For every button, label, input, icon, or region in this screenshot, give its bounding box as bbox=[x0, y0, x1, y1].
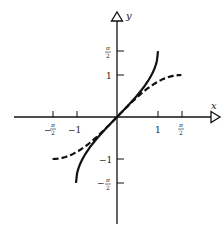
svg-text:π: π bbox=[105, 44, 111, 51]
x-tick-labels: − π 2 −1 1 π 2 bbox=[44, 121, 184, 136]
y-tick-label-neg-one: −1 bbox=[99, 155, 112, 165]
x-axis-label: x bbox=[211, 100, 217, 111]
svg-text:2: 2 bbox=[106, 184, 110, 191]
x-tick-label-pi-half: π 2 bbox=[178, 121, 184, 136]
svg-text:2: 2 bbox=[106, 52, 110, 59]
svg-text:π: π bbox=[105, 176, 111, 183]
y-tick-label-neg-pi-half: − π 2 bbox=[97, 176, 111, 191]
svg-text:π: π bbox=[50, 121, 56, 128]
x-tick-label-neg-one: −1 bbox=[68, 125, 81, 135]
svg-text:−: − bbox=[97, 178, 105, 188]
y-tick-label-one: 1 bbox=[106, 71, 112, 81]
x-tick-label-one: 1 bbox=[155, 125, 161, 135]
function-plot: x y − π 2 −1 1 π 2 π 2 1 −1 − π 2 bbox=[0, 0, 222, 226]
y-axis-label: y bbox=[125, 10, 132, 21]
svg-text:π: π bbox=[178, 121, 184, 128]
svg-text:2: 2 bbox=[51, 129, 55, 136]
y-axis-arrow-icon bbox=[112, 12, 123, 21]
x-axis-arrow-icon bbox=[211, 112, 220, 123]
y-tick-label-pi-half: π 2 bbox=[105, 44, 111, 59]
x-tick-label-neg-pi-half: − π 2 bbox=[44, 121, 56, 136]
svg-text:2: 2 bbox=[179, 129, 183, 136]
